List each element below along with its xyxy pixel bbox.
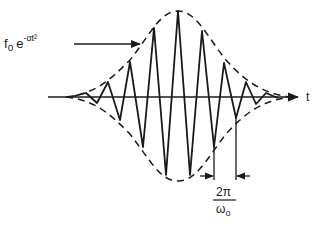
lower-envelope [66,97,290,181]
wave-packet-diagram: t foe-αt² 2π ωo [0,0,322,226]
upper-envelope [66,11,290,97]
period-marker [200,118,250,180]
svg-text:foe-αt²: foe-αt² [4,33,37,53]
svg-text:2π: 2π [216,185,231,199]
oscillation-curve [70,11,278,175]
time-axis-label: t [306,90,310,104]
svg-text:ωo: ωo [216,202,230,218]
period-label: 2π ωo [213,185,236,218]
envelope-label: foe-αt² [4,33,37,53]
